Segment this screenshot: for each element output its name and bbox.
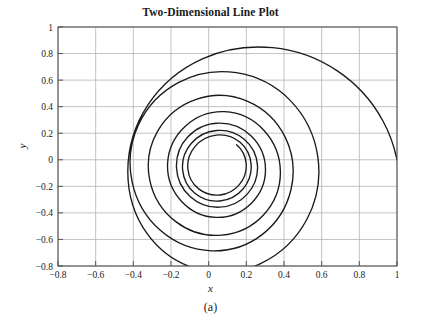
plot-background bbox=[58, 27, 397, 266]
x-tick-label: −0.4 bbox=[125, 270, 142, 280]
y-tick-label: −0.2 bbox=[36, 182, 53, 192]
x-tick-label: 1 bbox=[395, 270, 400, 280]
y-axis-label: y bbox=[16, 138, 28, 154]
line-plot-canvas: 1 0.8 0.6 0.4 0.2 0 −0.2 −0.4 −0.6 −0.8 … bbox=[0, 0, 421, 330]
y-tick-label: 0 bbox=[48, 155, 53, 165]
x-axis-label: x bbox=[0, 282, 421, 294]
x-tick-label: −0.6 bbox=[87, 270, 104, 280]
figure-panel: Two-Dimensional Line Plot bbox=[0, 0, 421, 330]
x-tick-label: 0.8 bbox=[353, 270, 365, 280]
x-tick-label: 0.6 bbox=[316, 270, 328, 280]
x-tick-label: 0.2 bbox=[240, 270, 252, 280]
y-tick-label: 0.4 bbox=[41, 102, 53, 112]
y-tick-label: 1 bbox=[48, 23, 53, 33]
x-tick-label: 0 bbox=[206, 270, 211, 280]
y-tick-label: −0.4 bbox=[36, 208, 53, 218]
y-tick-labels: 1 0.8 0.6 0.4 0.2 0 −0.2 −0.4 −0.6 −0.8 bbox=[36, 23, 53, 272]
y-tick-label: −0.6 bbox=[36, 235, 53, 245]
y-tick-label: 0.8 bbox=[41, 49, 53, 59]
figure-caption: (a) bbox=[0, 300, 421, 315]
x-tick-labels: −0.8 −0.6 −0.4 −0.2 0 0.2 0.4 0.6 0.8 1 bbox=[49, 270, 399, 280]
y-tick-label: 0.6 bbox=[41, 76, 53, 86]
y-tick-label: 0.2 bbox=[41, 129, 53, 139]
x-tick-label: −0.2 bbox=[162, 270, 179, 280]
x-tick-label: 0.4 bbox=[278, 270, 290, 280]
x-tick-label: −0.8 bbox=[49, 270, 66, 280]
